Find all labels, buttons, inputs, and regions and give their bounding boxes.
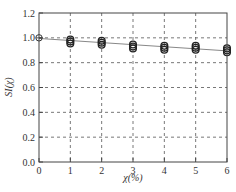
chart: 0123456 0.00.20.40.60.81.01.2 χ(%) SI(χ) (0, 0, 236, 192)
y-axis-ticks: 0.00.20.40.60.81.01.2 (23, 8, 44, 168)
y-axis-label: SI(χ) (3, 77, 15, 97)
x-tick-label: 4 (162, 165, 167, 176)
y-tick-label: 0.2 (23, 132, 36, 143)
x-tick-label: 5 (193, 165, 198, 176)
y-tick-label: 0.4 (23, 107, 36, 118)
y-tick-label: 0.0 (23, 157, 36, 168)
x-tick-label: 2 (99, 165, 104, 176)
x-tick-label: 6 (225, 165, 230, 176)
x-axis-label: χ(%) (122, 172, 143, 184)
y-tick-label: 1.2 (23, 8, 36, 19)
x-tick-label: 0 (37, 165, 42, 176)
y-tick-label: 0.6 (23, 82, 36, 93)
x-tick-label: 1 (68, 165, 73, 176)
y-tick-label: 1.0 (23, 32, 36, 43)
grid-lines (39, 13, 227, 162)
y-tick-label: 0.8 (23, 57, 36, 68)
